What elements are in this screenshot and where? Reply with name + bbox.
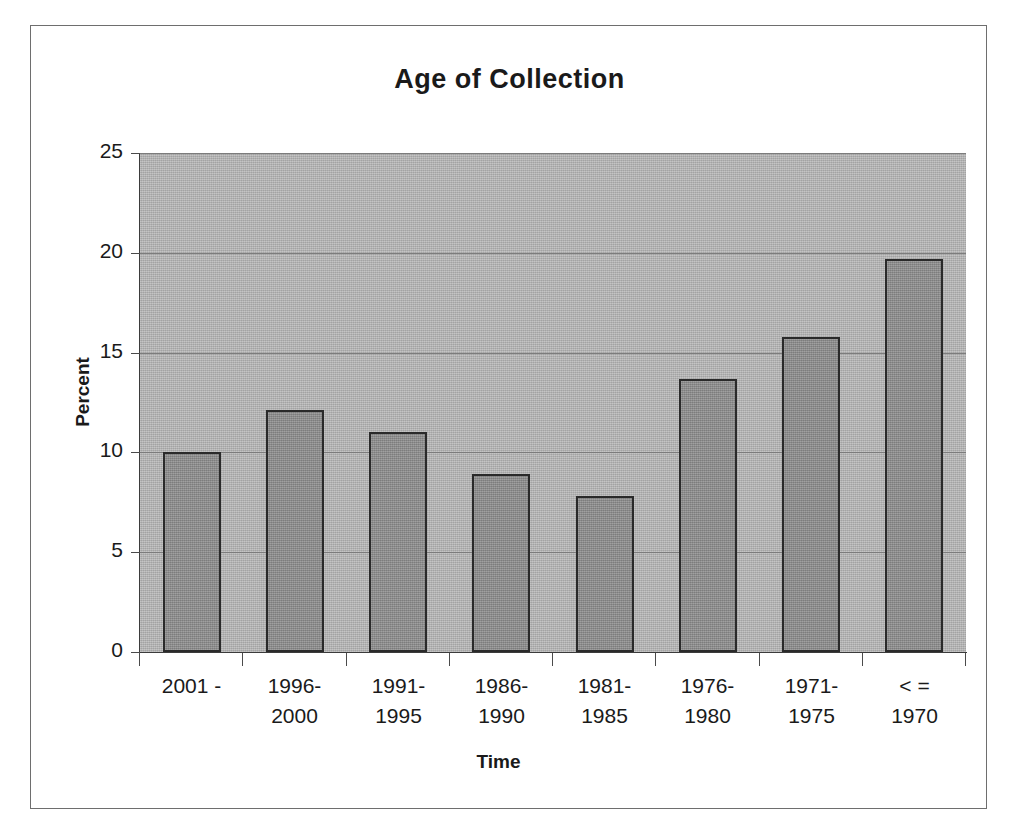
x-axis-line <box>139 652 967 653</box>
bar <box>266 410 324 652</box>
x-tick <box>862 653 863 666</box>
bar <box>369 432 427 652</box>
category-label: 2001 - <box>140 671 243 701</box>
x-tick <box>346 653 347 666</box>
gridline-25 <box>140 153 966 154</box>
y-tick-20 <box>131 253 140 254</box>
x-tick <box>242 653 243 666</box>
gridline-10 <box>140 452 966 453</box>
category-label: 1981- 1985 <box>553 671 656 731</box>
chart-title: Age of Collection <box>31 64 988 95</box>
y-tick-label: 10 <box>63 438 123 462</box>
y-tick-5 <box>131 552 140 553</box>
category-label: < = 1970 <box>863 671 966 731</box>
category-label: 1991- 1995 <box>347 671 450 731</box>
gridline-20 <box>140 253 966 254</box>
x-tick <box>449 653 450 666</box>
x-axis-title: Time <box>31 751 966 773</box>
category-label: 1976- 1980 <box>656 671 759 731</box>
bar <box>679 379 737 652</box>
x-tick <box>759 653 760 666</box>
category-label: 1996- 2000 <box>243 671 346 731</box>
chart-frame: Age of Collection Percent 2520151050 200… <box>30 25 987 809</box>
y-tick-10 <box>131 452 140 453</box>
gridline-15 <box>140 353 966 354</box>
y-tick-label: 20 <box>63 239 123 263</box>
bar <box>163 452 221 652</box>
y-tick-label: 25 <box>63 139 123 163</box>
category-label: 1971- 1975 <box>760 671 863 731</box>
y-tick-label: 0 <box>63 638 123 662</box>
x-tick <box>139 653 140 666</box>
bar <box>576 496 634 652</box>
y-tick-25 <box>131 153 140 154</box>
plot-area <box>140 153 966 652</box>
y-tick-label: 15 <box>63 339 123 363</box>
x-tick <box>965 653 966 666</box>
x-tick <box>655 653 656 666</box>
gridline-5 <box>140 552 966 553</box>
bar <box>782 337 840 652</box>
x-tick <box>552 653 553 666</box>
y-tick-15 <box>131 353 140 354</box>
bar <box>472 474 530 652</box>
y-tick-label: 5 <box>63 538 123 562</box>
bar <box>885 259 943 652</box>
y-axis-line <box>139 153 140 653</box>
category-label: 1986- 1990 <box>450 671 553 731</box>
